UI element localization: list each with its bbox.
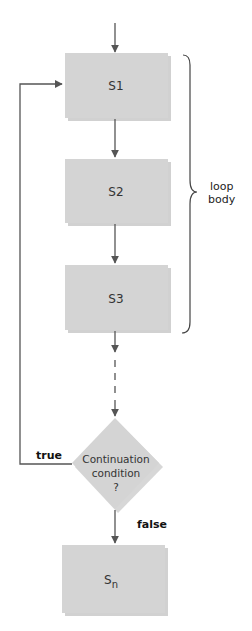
node-s2-label: S2 [108,185,123,199]
condition-line-1: Continuation [82,453,149,465]
flowchart-canvas: S1 S2 S3 Continuation condition ? true f… [0,0,252,631]
loop-body-brace [182,55,197,333]
node-s1: S1 [65,53,171,121]
condition-line-2: condition [92,467,141,479]
node-sn: Sn [62,545,168,616]
true-loop-line [20,84,72,464]
node-s1-label: S1 [108,79,123,93]
node-s3: S3 [65,265,171,333]
node-sn-main: S [104,573,112,587]
true-label: true [36,449,62,462]
node-sn-sub: n [112,579,118,590]
condition-line-3: ? [113,481,119,493]
node-s2: S2 [65,159,171,226]
node-s3-label: S3 [108,292,123,306]
node-condition: Continuation condition ? [72,418,163,513]
brace-label-line-1: loop [210,180,234,193]
brace-label-line-2: body [208,193,236,206]
false-label: false [137,518,167,531]
